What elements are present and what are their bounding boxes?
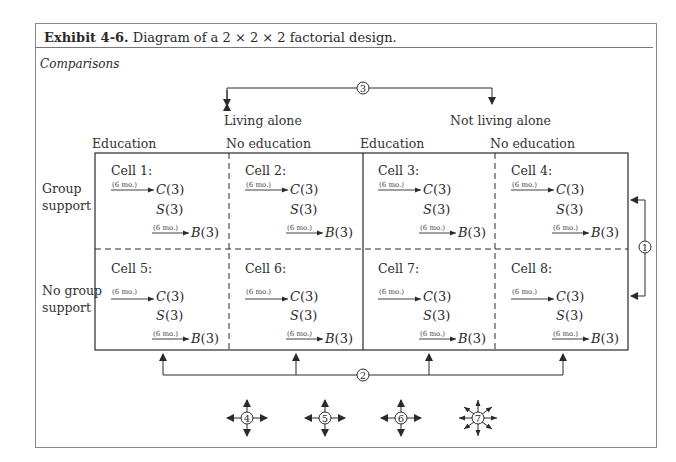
- svg-text:6: 6: [398, 413, 404, 424]
- cell-title: Cell 1:: [111, 163, 152, 178]
- cell-4: Cell 4: (6 mo.) C(3) S(3) (6 mo.) B(3): [495, 153, 628, 249]
- interval-label: (6 mo.): [420, 330, 445, 338]
- c-measure: C(3): [290, 289, 318, 304]
- s-measure: S(3): [423, 202, 450, 217]
- interval-label: (6 mo.): [379, 181, 404, 189]
- cell-title: Cell 3:: [378, 163, 419, 178]
- cell-6: Cell 6: (6 mo.) C(3) S(3) (6 mo.) B(3): [229, 249, 363, 350]
- interval-label: (6 mo.): [287, 224, 312, 232]
- interval-label: (6 mo.): [246, 288, 271, 296]
- svg-text:7: 7: [475, 413, 481, 424]
- interval-label: (6 mo.): [379, 288, 404, 296]
- svg-text:5: 5: [322, 413, 328, 424]
- c-measure: C(3): [290, 182, 318, 197]
- b-measure: B(3): [191, 225, 219, 240]
- svg-text:2: 2: [360, 370, 366, 381]
- svg-text:4: 4: [244, 413, 250, 424]
- interval-label: (6 mo.): [112, 181, 137, 189]
- b-measure: B(3): [458, 225, 486, 240]
- s-measure: S(3): [290, 202, 317, 217]
- c-measure: C(3): [156, 182, 184, 197]
- comparison-7-symbol: 7: [459, 400, 497, 436]
- s-measure: S(3): [556, 202, 583, 217]
- comparison-4-symbol: 4: [227, 400, 267, 436]
- c-measure: C(3): [156, 289, 184, 304]
- b-measure: B(3): [325, 331, 353, 346]
- b-measure: B(3): [591, 331, 619, 346]
- comparison-2-bracket: 2: [163, 354, 563, 381]
- svg-text:1: 1: [642, 242, 648, 253]
- s-measure: S(3): [156, 308, 183, 323]
- cell-5: Cell 5: (6 mo.) C(3) S(3) (6 mo.) B(3): [95, 249, 229, 350]
- svg-text:3: 3: [360, 83, 366, 94]
- comparison-3-bracket: 3: [227, 82, 492, 106]
- interval-label: (6 mo.): [553, 224, 578, 232]
- cell-title: Cell 8:: [511, 261, 552, 276]
- interval-label: (6 mo.): [153, 330, 178, 338]
- cell-3: Cell 3: (6 mo.) C(3) S(3) (6 mo.) B(3): [362, 153, 495, 249]
- c-measure: C(3): [423, 182, 451, 197]
- interval-label: (6 mo.): [420, 224, 445, 232]
- s-measure: S(3): [423, 308, 450, 323]
- interval-label: (6 mo.): [553, 330, 578, 338]
- interval-label: (6 mo.): [512, 181, 537, 189]
- b-measure: B(3): [191, 331, 219, 346]
- s-measure: S(3): [156, 202, 183, 217]
- cell-title: Cell 2:: [245, 163, 286, 178]
- b-measure: B(3): [458, 331, 486, 346]
- b-measure: B(3): [591, 225, 619, 240]
- interval-label: (6 mo.): [153, 224, 178, 232]
- interval-label: (6 mo.): [287, 330, 312, 338]
- b-measure: B(3): [325, 225, 353, 240]
- cell-title: Cell 6:: [245, 261, 286, 276]
- comparison-5-symbol: 5: [305, 400, 345, 436]
- c-measure: C(3): [556, 289, 584, 304]
- cell-title: Cell 5:: [111, 261, 152, 276]
- interval-label: (6 mo.): [112, 288, 137, 296]
- cell-1: Cell 1: (6 mo.) C(3) S(3) (6 mo.) B(3): [95, 153, 229, 249]
- cell-title: Cell 7:: [378, 261, 419, 276]
- interval-label: (6 mo.): [246, 181, 271, 189]
- c-measure: C(3): [423, 289, 451, 304]
- cell-2: Cell 2: (6 mo.) C(3) S(3) (6 mo.) B(3): [229, 153, 363, 249]
- comparison-6-symbol: 6: [381, 400, 421, 436]
- s-measure: S(3): [556, 308, 583, 323]
- s-measure: S(3): [290, 308, 317, 323]
- cell-7: Cell 7: (6 mo.) C(3) S(3) (6 mo.) B(3): [362, 249, 495, 350]
- cell-title: Cell 4:: [511, 163, 552, 178]
- interval-label: (6 mo.): [512, 288, 537, 296]
- comparison-1-bracket: 1: [631, 200, 651, 296]
- cell-8: Cell 8: (6 mo.) C(3) S(3) (6 mo.) B(3): [495, 249, 628, 350]
- c-measure: C(3): [556, 182, 584, 197]
